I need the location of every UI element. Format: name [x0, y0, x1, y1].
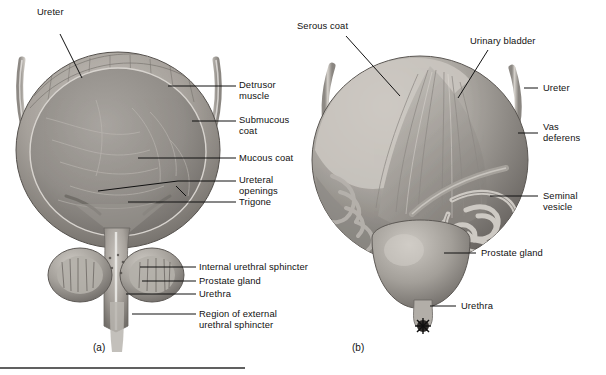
label-prostate-gland-a: Prostate gland	[199, 275, 261, 286]
label-trigone: Trigone	[239, 196, 271, 207]
label-mucous-coat: Mucous coat	[239, 152, 293, 163]
label-internal-urethral-sphincter: Internal urethral sphincter	[199, 261, 308, 272]
label-ureteral-openings: Ureteral openings	[239, 174, 278, 197]
label-region-external-urethral-sphincter: Region of external urethral sphincter	[199, 308, 277, 331]
label-urethra-a: Urethra	[199, 288, 231, 299]
anatomical-figure: Ureter Detrusor muscle Submucous coat Mu…	[0, 0, 606, 375]
label-ureter-b: Ureter	[543, 82, 570, 93]
panel-b-caption: (b)	[352, 342, 364, 353]
label-submucous-coat: Submucous coat	[239, 114, 289, 137]
figure-artwork	[0, 0, 606, 375]
distal-urethra-a	[110, 302, 124, 352]
label-urinary-bladder: Urinary bladder	[470, 35, 536, 46]
panel-b-artwork	[312, 56, 528, 334]
label-detrusor-muscle: Detrusor muscle	[239, 79, 276, 102]
prostate-gland-b	[372, 220, 470, 308]
label-prostate-gland-b: Prostate gland	[481, 247, 543, 258]
label-seminal-vesicle: Seminal vesicle	[543, 190, 578, 213]
urethra-opening-b	[415, 318, 431, 334]
panel-a-caption: (a)	[93, 342, 105, 353]
label-ureter-a: Ureter	[37, 6, 64, 17]
label-urethra-b: Urethra	[461, 300, 493, 311]
label-vas-deferens: Vas deferens	[543, 121, 580, 144]
label-serous-coat: Serous coat	[297, 20, 348, 31]
